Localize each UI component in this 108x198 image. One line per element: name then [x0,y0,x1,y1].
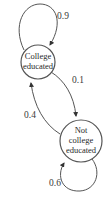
prob-label-not-college-to-not-college: 0.6 [49,178,61,188]
state-label-line: Not [75,125,88,135]
prob-label-college-to-not-college: 0.1 [72,75,84,85]
prob-label-college-to-college: 0.9 [57,11,69,21]
self-loop-college-arrow [19,4,57,50]
state-label-line: educated [66,145,97,155]
state-label-line: college [69,135,94,145]
self-loop-not-college-arrow [61,159,97,191]
prob-label-not-college-to-college: 0.4 [24,110,36,120]
state-not-college-educated: Not college educated [60,120,102,162]
state-label-line: College [25,51,52,61]
markov-diagram: 0.9 College educated 0.1 0.4 Not college… [0,0,108,198]
transition-not-college-to-college-arrow [31,83,60,134]
state-label-line: educated [23,61,54,71]
state-college-educated: College educated [21,45,55,79]
